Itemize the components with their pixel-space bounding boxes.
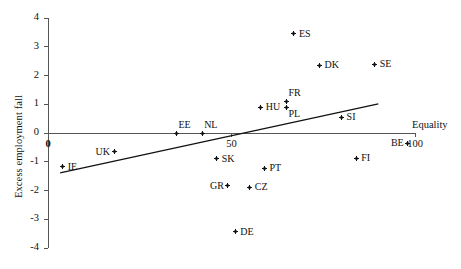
x-axis-title: Equality [412,120,448,131]
data-point-marker [372,62,377,67]
x-tick-label: 0 [28,139,68,150]
data-point-marker [174,131,179,136]
data-point-marker [262,166,267,171]
data-point-label: DK [325,60,339,70]
plot-area [0,0,461,269]
x-tick-label: 50 [212,139,252,150]
data-point-label: SI [347,112,356,122]
data-point-marker [200,131,205,136]
scatter-chart: Excess employment fall Equality 43210-1-… [0,0,461,269]
data-point-label: FR [289,88,301,98]
y-tick-label: 3 [0,41,39,52]
data-point-label: NL [204,120,217,130]
y-tick-label: -4 [0,242,39,253]
data-point-label: DE [240,227,253,237]
data-point-label: SK [222,154,235,164]
data-point-marker [112,149,117,154]
data-point-marker [405,141,410,146]
data-point-label: IE [68,162,77,172]
data-point-marker [317,63,322,68]
data-point-marker [354,156,359,161]
data-point-label: HU [266,102,280,112]
data-point-label: ES [299,29,311,39]
data-point-marker [233,229,238,234]
data-point-label: UK [92,147,110,157]
y-tick-label: 1 [0,98,39,109]
data-point-marker [291,31,296,36]
data-point-label: EE [178,120,190,130]
y-axis-title: Excess employment fall [14,95,25,198]
y-axis [44,18,48,248]
data-point-marker [60,164,65,169]
y-tick-label: 0 [0,127,39,138]
y-tick-label: 2 [0,70,39,81]
data-point-label: PL [289,109,301,119]
y-tick-label: -2 [0,185,39,196]
y-tick-label: -1 [0,156,39,167]
data-point-label: SE [380,59,392,69]
data-point-label: FI [361,153,370,163]
y-tick-label: 4 [0,12,39,23]
data-point-marker [214,156,219,161]
y-tick-label: -3 [0,213,39,224]
data-point-marker [225,183,230,188]
data-point-marker [247,185,252,190]
data-point-marker [284,99,289,104]
data-point-label: GR [206,181,224,191]
data-point-label: PT [270,163,282,173]
data-point-label: CZ [255,182,268,192]
data-point-label: BE [386,138,404,148]
data-point-marker [339,115,344,120]
data-point-marker [258,105,263,110]
